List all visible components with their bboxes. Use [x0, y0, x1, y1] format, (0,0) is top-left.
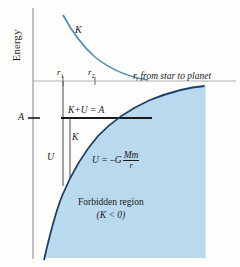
- diagram-canvas: [0, 0, 240, 267]
- y-axis-label: Energy: [12, 15, 23, 75]
- forbidden-region-label: Forbidden region (K < 0): [78, 196, 144, 222]
- kinetic-curve-label: K: [75, 25, 82, 35]
- potential-segment-label: U: [47, 152, 54, 162]
- formula-lhs: U = –G: [92, 155, 122, 165]
- formula-denominator: r: [123, 161, 140, 170]
- potential-energy-formula: U = –GMmr: [92, 150, 139, 171]
- r2-subscript: 2: [92, 72, 95, 79]
- r2-tick-label: r2: [88, 68, 95, 79]
- energy-level-label: A: [18, 112, 24, 122]
- total-energy-annotation: K+U = A: [68, 106, 104, 116]
- formula-fraction: Mmr: [123, 150, 140, 171]
- kinetic-segment-label: K: [72, 133, 78, 143]
- forbidden-region-title: Forbidden region: [78, 196, 144, 209]
- x-axis-label: r, from star to planet: [133, 72, 211, 82]
- r1-subscript: 1: [61, 72, 64, 79]
- r1-tick-label: r1: [57, 68, 64, 79]
- forbidden-region-condition: (K < 0): [78, 209, 144, 222]
- energy-diagram-figure: Energy r, from star to planet r1 r2 A K+…: [0, 0, 240, 267]
